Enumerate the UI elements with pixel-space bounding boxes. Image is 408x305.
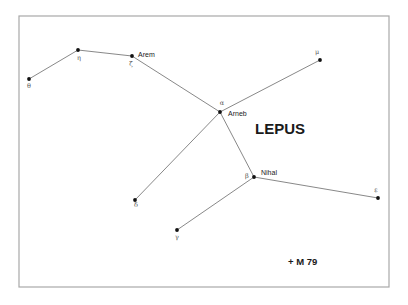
star-greek-label: η [77, 54, 81, 62]
line-beta-epsilon [254, 177, 378, 198]
star-dot-icon [218, 110, 222, 114]
star-greek-label: γ [175, 233, 179, 241]
star-dot-icon [318, 58, 322, 62]
line-alpha-beta [220, 112, 254, 177]
constellation-title: LEPUS [255, 120, 305, 137]
star-greek-label: μ [315, 48, 319, 56]
star-dot-icon [76, 48, 80, 52]
line-theta-eta [29, 50, 78, 79]
star-dot-icon [252, 175, 256, 179]
star-dot-icon [175, 228, 179, 232]
line-beta-gamma [177, 177, 254, 230]
constellation-lines [29, 50, 378, 230]
line-eta-zeta [78, 50, 132, 56]
star-greek-label: ε [374, 186, 378, 194]
deep-sky-objects: + M 79 [288, 256, 317, 267]
star-greek-label: α [220, 99, 225, 107]
star-gamma: γ [175, 228, 179, 241]
star-mu: μ [315, 48, 322, 62]
chart-frame [19, 16, 389, 287]
line-zeta-alpha [132, 56, 220, 112]
star-dot-icon [27, 77, 31, 81]
line-alpha-delta [135, 112, 220, 200]
star-dot-icon [376, 196, 380, 200]
star-name-label: Arem [138, 51, 155, 58]
star-delta: δ [133, 198, 138, 209]
star-greek-label: θ [27, 82, 31, 90]
lepus-constellation-chart: θηζAremαArnebμβNihalεδγ LEPUS + M 79 [0, 0, 408, 305]
star-theta: θ [27, 77, 31, 90]
star-name-label: Arneb [228, 110, 247, 117]
star-zeta: ζArem [129, 51, 155, 68]
star-greek-label: ζ [129, 60, 133, 68]
line-alpha-mu [220, 60, 320, 112]
star-name-label: Nihal [261, 169, 277, 176]
star-greek-label: δ [134, 201, 138, 209]
deep-sky-object-m79: + M 79 [288, 256, 317, 267]
star-dot-icon [130, 54, 134, 58]
star-greek-label: β [245, 172, 249, 180]
star-alpha: αArneb [218, 99, 247, 117]
